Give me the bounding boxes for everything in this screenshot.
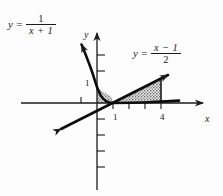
graph-canvas: [0, 0, 223, 196]
math-figure: y = 1 x + 1 y = x − 1 2 y x 1 1 4: [0, 0, 223, 196]
